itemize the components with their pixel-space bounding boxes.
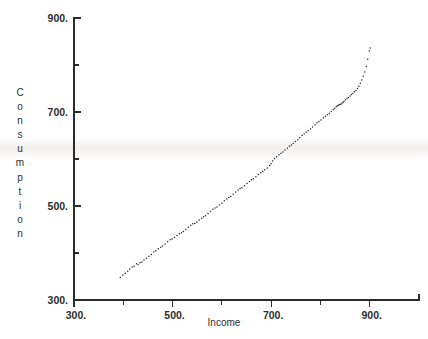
data-point (151, 254, 153, 256)
data-point (190, 225, 192, 227)
data-point (360, 83, 362, 85)
data-point (133, 265, 135, 267)
data-point (269, 165, 271, 167)
y-axis-ticks (74, 18, 81, 300)
x-axis-tick-label: 500. (164, 309, 185, 321)
data-point (201, 217, 203, 219)
data-point (262, 170, 264, 172)
data-point (274, 158, 276, 160)
data-point (194, 223, 196, 225)
data-point (160, 247, 162, 249)
data-point (295, 141, 297, 143)
data-point (174, 237, 176, 239)
data-point (291, 144, 293, 146)
data-point (148, 256, 150, 258)
data-point (249, 181, 251, 183)
data-point (224, 200, 226, 202)
data-point (320, 119, 322, 121)
data-point (228, 197, 230, 199)
data-point (310, 128, 312, 130)
data-point (287, 147, 289, 149)
data-point (299, 137, 301, 139)
data-point (162, 245, 164, 247)
data-point (351, 94, 353, 96)
data-point (251, 179, 253, 181)
data-point (127, 271, 129, 273)
data-point (276, 156, 278, 158)
data-point (348, 97, 350, 99)
data-point (120, 277, 122, 279)
data-point (212, 209, 214, 211)
data-point (136, 263, 138, 265)
data-point (266, 167, 268, 169)
data-point (221, 202, 223, 204)
data-point (169, 239, 171, 241)
data-point (264, 169, 266, 171)
data-point (230, 196, 232, 198)
data-point (357, 88, 359, 90)
data-point (146, 257, 148, 259)
data-point (196, 221, 198, 223)
x-axis-ticks (74, 300, 370, 307)
data-point (369, 47, 371, 49)
data-point (239, 188, 241, 190)
data-point (345, 99, 347, 101)
data-point (198, 219, 200, 221)
data-point (203, 216, 205, 218)
data-point (244, 185, 246, 187)
data-point (241, 187, 243, 189)
data-point (216, 206, 218, 208)
data-point (219, 204, 221, 206)
data-point (185, 229, 187, 231)
data-point (323, 117, 325, 119)
data-point (367, 59, 369, 61)
data-point (270, 163, 272, 165)
data-point (167, 241, 169, 243)
axes-group: 300.500.700.900. 300.500.700.900. (48, 12, 419, 321)
data-point (316, 122, 318, 124)
data-point (355, 90, 357, 92)
data-point (235, 191, 237, 193)
data-point (312, 126, 314, 128)
data-point (278, 154, 280, 156)
data-point (272, 160, 274, 162)
x-axis-line (74, 294, 419, 300)
data-point (327, 114, 329, 116)
data-point (358, 85, 360, 87)
x-axis-tick-label: 900. (361, 309, 382, 321)
data-points-group (120, 47, 371, 278)
data-point (331, 111, 333, 113)
data-point (343, 100, 345, 102)
data-point (314, 124, 316, 126)
data-point (210, 210, 212, 212)
data-point (301, 135, 303, 137)
data-point (155, 250, 157, 252)
data-point (176, 235, 178, 237)
x-axis-tick-label: 700. (263, 309, 284, 321)
x-axis-title: Income (208, 317, 241, 328)
data-point (205, 215, 207, 217)
data-point (237, 189, 239, 191)
x-axis-tick-label: 300. (66, 309, 87, 321)
data-point (232, 194, 234, 196)
data-point (282, 151, 284, 153)
data-point (139, 262, 141, 264)
data-point (207, 213, 209, 215)
data-point (226, 198, 228, 200)
data-point (192, 223, 194, 225)
data-point (307, 130, 309, 132)
data-point (280, 153, 282, 155)
data-point (305, 131, 307, 133)
y-axis-tick-label: 300. (48, 294, 69, 306)
data-point (143, 259, 145, 261)
data-point (318, 121, 320, 123)
data-point (325, 115, 327, 117)
data-point (349, 95, 351, 97)
data-point (293, 143, 295, 145)
data-point (183, 231, 185, 233)
data-point (284, 149, 286, 151)
data-point (181, 232, 183, 234)
data-point (171, 238, 173, 240)
data-point (334, 107, 336, 109)
data-point (366, 66, 368, 68)
